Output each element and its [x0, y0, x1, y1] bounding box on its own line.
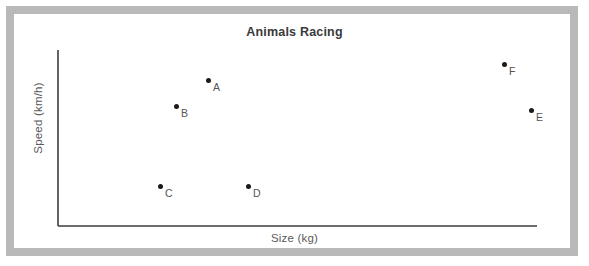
x-axis-label: Size (kg)	[0, 232, 589, 244]
scatter-plot: Animals Racing Speed (km/h) Size (kg) A …	[0, 0, 589, 266]
point-marker-icon	[206, 78, 211, 83]
point-marker-icon	[529, 108, 534, 113]
point-label: A	[213, 82, 220, 93]
point-label: E	[536, 112, 543, 123]
chart-title: Animals Racing	[0, 25, 589, 39]
point-label: F	[509, 66, 515, 77]
point-label: D	[253, 188, 261, 199]
point-label: B	[181, 108, 188, 119]
point-marker-icon	[158, 184, 163, 189]
point-label: C	[165, 188, 173, 199]
figure-container: Animals Racing Speed (km/h) Size (kg) A …	[0, 0, 589, 266]
point-marker-icon	[174, 104, 179, 109]
point-marker-icon	[502, 62, 507, 67]
plot-axes	[0, 0, 589, 266]
y-axis-label: Speed (km/h)	[32, 38, 44, 198]
point-marker-icon	[246, 184, 251, 189]
